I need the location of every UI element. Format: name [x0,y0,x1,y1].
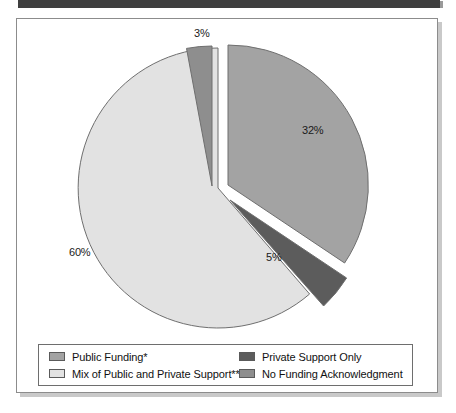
legend-label-private-support-only: Private Support Only [262,351,362,363]
legend-swatch-private-support-only [239,352,255,361]
legend-label-public-funding: Public Funding* [72,351,148,363]
legend-label-mix-of-public-and-private-support: Mix of Public and Private Support** [72,368,240,380]
chart-legend: Public Funding* Private Support Only Mix… [38,344,413,386]
legend-swatch-public-funding [49,352,65,361]
legend-item-mix-of-public-and-private-support[interactable]: Mix of Public and Private Support** [49,368,239,380]
legend-item-public-funding[interactable]: Public Funding* [49,351,239,363]
figure-shadow-right [438,22,442,397]
legend-swatch-no-funding-acknowledgment [239,369,255,378]
legend-item-no-funding-acknowledgment[interactable]: No Funding Acknowledgment [239,368,412,380]
pie-label-mix-of-public-and-private-support: 60% [69,246,90,258]
legend-label-no-funding-acknowledgment: No Funding Acknowledgment [262,368,403,380]
pie-chart-svg [16,18,438,393]
legend-item-private-support-only[interactable]: Private Support Only [239,351,412,363]
page-top-bar-shadow [440,1,443,8]
pie-label-no-funding-acknowledgment: 3% [194,27,210,39]
pie-label-private-support-only: 5% [266,251,282,263]
page-top-dark-bar [18,0,440,8]
pie-label-public-funding: 32% [302,124,323,136]
figure-shadow-bottom [20,393,442,397]
pie-chart: 32% 5% 60% 3% [16,18,438,393]
legend-swatch-mix-of-public-and-private-support [49,369,65,378]
